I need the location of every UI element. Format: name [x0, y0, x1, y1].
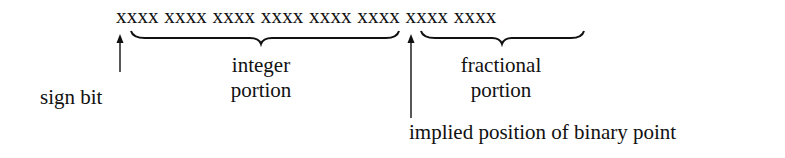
integer-portion-label: integer portion	[221, 53, 301, 103]
fractional-label-line1: fractional	[446, 53, 556, 78]
binary-point-arrow-icon	[408, 34, 415, 118]
sign-bit-arrow-icon	[117, 34, 124, 72]
integer-brace-icon	[131, 31, 399, 44]
fractional-portion-label: fractional portion	[446, 53, 556, 103]
integer-label-line2: portion	[221, 78, 301, 103]
sign-bit-label: sign bit	[40, 85, 102, 110]
integer-label-line1: integer	[221, 53, 301, 78]
fractional-brace-icon	[421, 31, 584, 44]
binary-point-label: implied position of binary point	[409, 120, 676, 145]
fractional-label-line2: portion	[446, 78, 556, 103]
